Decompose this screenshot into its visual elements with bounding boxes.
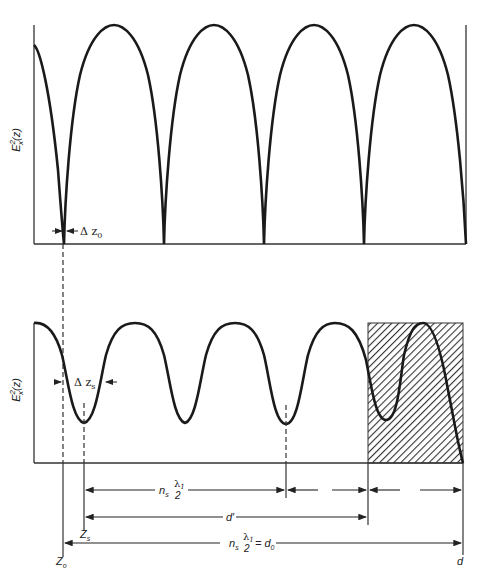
label-z0: Zo <box>55 555 67 569</box>
bottom-y-label: E2x(z) <box>8 378 25 402</box>
svg-text:= d0: = d0 <box>255 537 275 551</box>
bottom-chart: E2x(z) Δ zs <box>8 323 463 463</box>
svg-text:E2x(z): E2x(z) <box>8 378 25 402</box>
svg-text:E2x(z): E2x(z) <box>8 128 25 152</box>
top-y-label: E2x(z) <box>8 128 25 152</box>
label-zs: Zs <box>79 528 91 542</box>
top-chart: E2x(z) Δ z0 <box>8 25 466 244</box>
svg-text:Δ zs: Δ zs <box>74 376 95 391</box>
svg-text:Δ z0: Δ z0 <box>80 225 102 240</box>
svg-text:ns: ns <box>159 484 169 498</box>
standing-wave-diagram: E2x(z) Δ z0 E2x(z) Δ zs <box>0 0 484 583</box>
top-curve <box>34 25 466 244</box>
dim-d-prime: d′ <box>86 511 366 523</box>
delta-z0-annotation: Δ z0 <box>52 225 102 240</box>
label-d: d <box>457 555 464 567</box>
svg-text:2: 2 <box>243 543 250 554</box>
dim-ns-lambda-half: ns λ1 2 <box>86 478 461 501</box>
svg-text:2: 2 <box>174 490 181 501</box>
svg-text:d′: d′ <box>226 511 235 523</box>
svg-text:ns: ns <box>229 537 239 551</box>
dim-d0: ns λ1 2 = d0 <box>65 531 461 554</box>
dimension-annotations: ns λ1 2 d′ ns λ1 2 = d0 Zs Zo d <box>55 463 464 569</box>
